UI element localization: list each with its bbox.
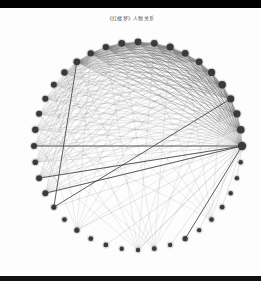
character-node: [31, 143, 37, 149]
relationship-edge: [35, 43, 121, 129]
bottom-border: [0, 276, 261, 281]
character-node: [227, 95, 234, 102]
character-node: [88, 236, 93, 241]
relationship-edge: [39, 114, 138, 250]
relationship-edge: [212, 130, 241, 220]
character-node: [32, 127, 38, 133]
network-graph: [0, 8, 261, 276]
character-node: [73, 58, 80, 65]
character-node: [32, 159, 38, 165]
relationship-edge: [199, 146, 242, 230]
character-node: [61, 69, 67, 75]
relationship-edge: [138, 146, 242, 250]
relationship-edge: [185, 53, 237, 114]
figure-canvas: 《红楼梦》人物关系: [0, 8, 261, 276]
character-node: [51, 205, 56, 210]
character-node: [136, 248, 140, 252]
character-node: [168, 243, 172, 247]
relationship-edge: [35, 47, 170, 162]
relationship-edge: [54, 42, 138, 85]
relationship-edge: [77, 42, 138, 230]
relationship-edge: [77, 85, 222, 230]
relationship-edge: [106, 146, 242, 245]
character-node: [62, 217, 67, 222]
relationship-edge: [45, 62, 77, 193]
character-node: [220, 205, 225, 210]
character-node: [239, 160, 243, 164]
character-node: [209, 217, 214, 222]
character-node: [182, 50, 189, 57]
character-node: [151, 40, 158, 47]
character-node: [103, 243, 108, 248]
relationship-edge: [45, 99, 154, 249]
character-node: [196, 58, 203, 65]
relationship-edge: [54, 146, 242, 207]
character-node: [118, 40, 125, 47]
character-node: [135, 39, 142, 46]
character-node: [120, 247, 124, 251]
relationship-edge: [39, 72, 211, 113]
relationship-edge: [34, 146, 154, 249]
relationship-edge: [91, 53, 242, 146]
character-node: [237, 126, 245, 134]
character-node: [235, 176, 239, 180]
character-node: [42, 96, 48, 102]
relationship-edge: [35, 146, 242, 162]
character-node: [183, 236, 188, 241]
character-node: [167, 43, 174, 50]
character-node: [51, 82, 57, 88]
character-node: [36, 175, 42, 181]
relationship-edge: [154, 47, 170, 249]
character-node: [228, 191, 232, 195]
character-node: [238, 142, 246, 150]
character-node: [233, 110, 240, 117]
character-node: [88, 50, 94, 56]
character-node: [208, 69, 215, 76]
character-node: [197, 228, 201, 232]
relationship-edge: [39, 146, 242, 178]
character-node: [152, 246, 157, 251]
character-node: [36, 111, 42, 117]
character-node: [74, 228, 79, 233]
relationship-edge: [138, 99, 231, 250]
character-node: [103, 44, 109, 50]
character-node: [42, 190, 48, 196]
character-node: [218, 81, 226, 89]
